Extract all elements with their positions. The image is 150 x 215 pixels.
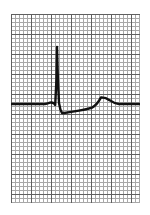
ecg-rhythm-strip [0, 0, 150, 215]
ecg-trace-layer [11, 14, 140, 203]
ecg-waveform-svg [11, 14, 140, 203]
ecg-waveform-path [11, 47, 140, 113]
